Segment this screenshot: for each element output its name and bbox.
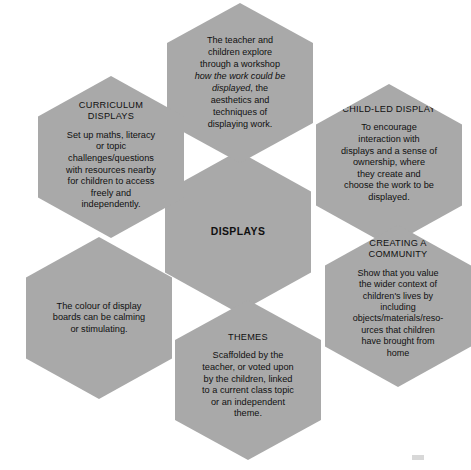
- hex-title-themes: THEMES: [228, 332, 268, 343]
- workshop-text-pre: The teacher and children explore through…: [200, 35, 280, 69]
- scan-artifact-speck: [412, 455, 424, 460]
- hex-cell-themes: THEMES Scaffolded by the teacher, or vot…: [175, 300, 321, 460]
- workshop-text-italic: how the work could be displayed: [195, 71, 286, 93]
- hex-body-themes: Scaffolded by the teacher, or voted upon…: [202, 350, 294, 420]
- hex-title-curriculum-displays: CURRICULUM DISPLAYS: [79, 100, 143, 123]
- hex-body-child-led-display: To encourage interaction with displays a…: [341, 122, 437, 203]
- hex-cell-child-led-display: CHILD-LED DISPLAY To encourage interacti…: [316, 84, 462, 246]
- hex-cell-creating-a-community: CREATING A COMMUNITY Show that you value…: [325, 225, 471, 387]
- hex-title-child-led-display: CHILD-LED DISPLAY: [342, 104, 435, 115]
- hex-body-workshop: The teacher and children explore through…: [195, 35, 286, 130]
- hex-body-creating-a-community: Show that you value the wider context of…: [353, 268, 444, 359]
- hex-cell-workshop: The teacher and children explore through…: [167, 3, 313, 163]
- hex-title-displays: DISPLAYS: [211, 226, 266, 237]
- hex-cell-display-colour: The colour of display boards can be calm…: [26, 237, 172, 399]
- hex-title-creating-a-community: CREATING A COMMUNITY: [369, 238, 428, 261]
- hex-body-curriculum-displays: Set up maths, literacy or topic challeng…: [66, 130, 156, 211]
- hex-body-display-colour: The colour of display boards can be calm…: [53, 301, 145, 336]
- hex-cell-curriculum-displays: CURRICULUM DISPLAYS Set up maths, litera…: [38, 76, 184, 238]
- hex-cell-displays: DISPLAYS: [165, 151, 311, 313]
